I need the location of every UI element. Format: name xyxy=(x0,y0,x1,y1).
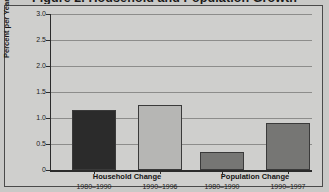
y-axis-tick-label: 2.0 xyxy=(36,62,46,70)
y-axis-tick xyxy=(46,66,51,67)
y-axis-tick-label: 1.5 xyxy=(36,88,46,96)
plot-area xyxy=(50,14,312,170)
y-axis-tick-label: 1.0 xyxy=(36,114,46,122)
y-axis-tick xyxy=(46,40,51,41)
x-axis-group-label: Population Change xyxy=(195,172,315,181)
bar xyxy=(72,110,116,170)
x-axis-group-label: Household Change xyxy=(67,172,187,181)
y-axis-title: Percent per Year xyxy=(2,0,11,58)
y-axis-tick-label: 3.0 xyxy=(36,10,46,18)
y-axis-tick xyxy=(46,118,51,119)
y-axis-tick-label: 2.5 xyxy=(36,36,46,44)
x-axis-category-label: 1990–1997 xyxy=(248,183,328,190)
y-axis-tick-label: 0.5 xyxy=(36,140,46,148)
chart-panel: 00.51.01.52.02.53.0 Percent per Year 198… xyxy=(4,5,323,187)
x-axis-labels: 1980–19901990–19961980–19901990–1997Hous… xyxy=(50,172,312,192)
gridline xyxy=(50,66,312,67)
y-axis-tick xyxy=(46,92,51,93)
bar xyxy=(266,123,310,170)
gridline xyxy=(50,92,312,93)
bar xyxy=(138,105,182,170)
gridline xyxy=(50,40,312,41)
bar xyxy=(200,152,244,170)
gridline xyxy=(50,14,312,15)
chart-root: Figure 2. Household and Population Growt… xyxy=(0,0,329,192)
chart-title: Figure 2. Household and Population Growt… xyxy=(0,0,329,4)
y-axis-tick xyxy=(46,144,51,145)
y-axis-tick xyxy=(46,14,51,15)
y-axis-tick xyxy=(46,170,51,171)
y-axis-labels: 00.51.01.52.02.53.0 xyxy=(5,14,46,171)
